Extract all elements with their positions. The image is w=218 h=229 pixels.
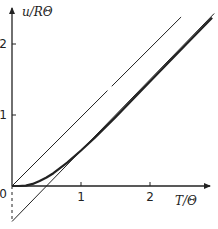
y-tick-label: 2 [0,37,7,51]
chart: 12120T/Θu/RΘ [0,0,218,229]
series-group [12,14,214,222]
origin-label: 0 [0,187,7,201]
x-tick-label: 1 [77,190,85,204]
axes [12,8,210,186]
series-line-1 [12,14,214,222]
x-axis-label: T/Θ [175,194,197,208]
series-line-0 [12,18,212,186]
series-line-2 [12,17,181,186]
y-axis-label: u/RΘ [22,5,53,19]
x-tick-label: 2 [146,190,154,204]
labels-group: 12120T/Θu/RΘ [0,5,197,208]
y-tick-label: 1 [0,108,7,122]
